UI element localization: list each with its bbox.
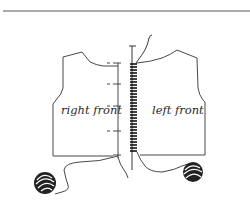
yarn-ball-left-icon xyxy=(34,172,56,194)
yarn-strand-left xyxy=(55,156,128,194)
left-front-label: left front xyxy=(152,103,204,117)
knitting-seam-diagram: right front left front xyxy=(0,0,250,206)
seam-thread xyxy=(136,35,152,63)
whipstitches xyxy=(130,64,137,151)
right-front-label: right front xyxy=(61,103,122,117)
yarn-ball-right-icon xyxy=(183,162,203,182)
diagram-svg xyxy=(0,0,250,206)
